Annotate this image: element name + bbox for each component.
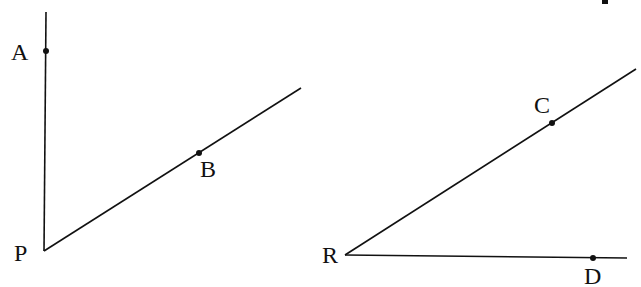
label-C: C — [534, 93, 550, 117]
point-A — [43, 48, 49, 54]
label-B: B — [200, 157, 216, 181]
ray-PA — [44, 12, 46, 251]
label-R: R — [322, 243, 338, 267]
ray-RD — [345, 255, 627, 258]
scan-artifact — [602, 0, 608, 4]
ray-RC — [345, 69, 636, 255]
label-A: A — [11, 40, 28, 64]
angles-svg — [0, 0, 641, 287]
point-C — [549, 120, 555, 126]
label-P: P — [14, 241, 27, 265]
point-D — [590, 255, 596, 261]
ray-PB — [44, 88, 301, 251]
label-D: D — [584, 264, 601, 287]
geometry-diagram: A B P C R D — [0, 0, 641, 287]
